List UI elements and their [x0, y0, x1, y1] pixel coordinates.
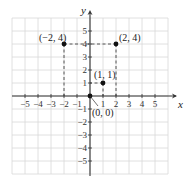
y-tick-label: −1 [77, 104, 87, 114]
x-tick-label: −5 [20, 99, 30, 109]
point-label: (1, 1) [94, 69, 116, 81]
x-tick-label: 4 [140, 99, 145, 109]
x-tick-label: −4 [33, 99, 43, 109]
y-tick-label: −4 [77, 143, 87, 153]
x-tick-label: 2 [114, 99, 119, 109]
y-tick-label: −2 [77, 117, 87, 127]
y-tick-label: 1 [83, 78, 88, 88]
y-tick-label: 3 [83, 52, 88, 62]
y-axis-label: y [80, 4, 86, 16]
data-point [114, 42, 119, 47]
y-tick-label: −3 [77, 130, 87, 140]
x-axis-label: x [177, 98, 183, 110]
x-tick-label: 5 [153, 99, 158, 109]
y-tick-label: 2 [83, 65, 88, 75]
x-tick-label: −3 [46, 99, 56, 109]
y-tick-label: 5 [83, 26, 88, 36]
point-label: (−2, 4) [39, 32, 66, 44]
coordinate-plane: xy −5−4−3−2−112345−5−4−3−2−112345 (−2, 4… [0, 0, 185, 183]
x-tick-label: 3 [127, 99, 132, 109]
point-label: (0, 0) [92, 107, 114, 119]
data-point [101, 81, 106, 86]
y-tick-label: −5 [77, 156, 87, 166]
x-tick-label: −2 [59, 99, 69, 109]
point-label: (2, 4) [119, 32, 141, 44]
y-tick-label: 4 [83, 39, 88, 49]
origin-label-leader [90, 96, 98, 106]
